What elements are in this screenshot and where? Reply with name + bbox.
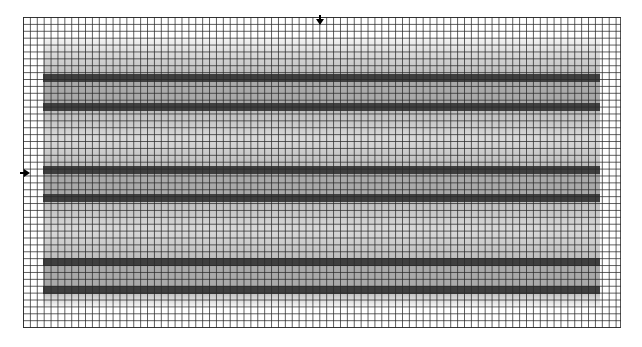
- fill-between-5-6: [43, 266, 600, 286]
- gradient-bottom: [43, 294, 600, 306]
- gradient-top: [43, 38, 600, 74]
- fill-between-3-4: [43, 174, 600, 194]
- dark-band-4: [43, 194, 600, 202]
- fill-between-1-2: [43, 82, 600, 103]
- fill-gap-upper: [43, 111, 600, 166]
- dark-band-5: [43, 258, 600, 266]
- arrow-down-icon[interactable]: [316, 19, 324, 25]
- dark-band-2: [43, 103, 600, 111]
- grid-canvas: [0, 0, 642, 347]
- arrow-right-icon[interactable]: [24, 169, 30, 177]
- dark-band-1: [43, 74, 600, 82]
- fill-gap-lower: [43, 202, 600, 258]
- dark-band-6: [43, 286, 600, 294]
- dark-band-3: [43, 166, 600, 174]
